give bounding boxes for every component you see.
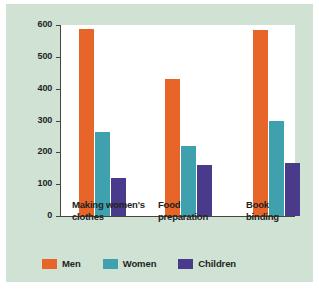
y-tick-label: 100 — [38, 178, 52, 189]
legend-label: Children — [198, 258, 236, 269]
y-tick-mark — [56, 184, 61, 185]
y-tick-mark — [56, 57, 61, 58]
y-tick-mark — [56, 89, 61, 90]
y-tick-label: 400 — [38, 83, 52, 94]
bar-children — [285, 163, 300, 216]
chart-legend: MenWomenChildren — [42, 258, 236, 269]
y-tick-mark — [56, 121, 61, 122]
y-tick-mark — [56, 25, 61, 26]
y-tick-label: 600 — [38, 19, 52, 30]
legend-label: Women — [123, 258, 157, 269]
bar-group — [79, 25, 127, 216]
bar-group — [253, 25, 301, 216]
category-label: Making women's clothes — [72, 199, 145, 222]
legend-swatch-men — [42, 259, 57, 269]
y-tick-label: 0 — [47, 210, 52, 221]
bar-men — [165, 79, 180, 216]
legend-label: Men — [62, 258, 81, 269]
y-tick-mark — [56, 216, 61, 217]
bar-men — [79, 29, 94, 216]
y-tick-label: 500 — [38, 51, 52, 62]
legend-item-children: Children — [178, 258, 236, 269]
bar-men — [253, 30, 268, 216]
category-label: Food preparation — [158, 199, 208, 222]
y-tick-label: 200 — [38, 146, 52, 157]
plot-area: 6005004003002001000 — [60, 25, 295, 217]
y-tick-mark — [56, 152, 61, 153]
category-label: Book binding — [246, 199, 279, 222]
legend-swatch-women — [103, 259, 118, 269]
legend-item-men: Men — [42, 258, 81, 269]
bar-group — [165, 25, 213, 216]
chart-figure: Annual earnings (in dollars) 60050040030… — [6, 4, 313, 282]
y-tick-label: 300 — [38, 115, 52, 126]
legend-item-women: Women — [103, 258, 157, 269]
legend-swatch-children — [178, 259, 193, 269]
